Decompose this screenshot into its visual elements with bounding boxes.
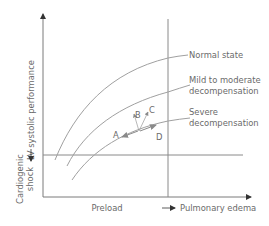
normal-state-label: Normal state (189, 50, 243, 60)
ventricular-function-diagram: A B C D Normal state Mild to moderate de… (0, 0, 269, 226)
cardiogenic-shock-label-line1: Cardiogenic (15, 154, 25, 204)
cardiogenic-shock-label-line2: shock (25, 167, 35, 191)
point-d-label: D (156, 132, 162, 142)
x-axis-label: Preload (91, 203, 122, 213)
pulmonary-edema-label: Pulmonary edema (180, 203, 256, 213)
y-axis-label: LV systolic performance (26, 60, 36, 160)
mild-decompensation-label-line1: Mild to moderate (189, 75, 261, 85)
point-a-label: A (113, 130, 119, 140)
severe-decompensation-curve (72, 118, 190, 180)
severe-decompensation-label-line2: decompensation (189, 118, 259, 128)
severe-decompensation-label-line1: Severe (189, 107, 218, 117)
mild-decompensation-curve (67, 85, 190, 166)
point-b-label: B (135, 110, 141, 120)
arrow-to-a (122, 131, 138, 137)
point-c-label: C (149, 105, 155, 115)
mild-decompensation-label-line2: decompensation (189, 86, 259, 96)
